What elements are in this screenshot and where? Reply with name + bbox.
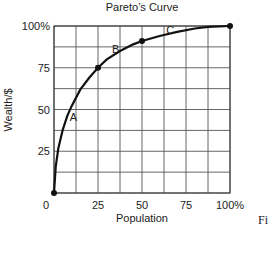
figure-caption-fragment: Fi — [258, 213, 268, 227]
x-tick-label: 0 — [43, 199, 49, 211]
chart-title: Pareto’s Curve — [106, 1, 179, 13]
y-tick-label: 100% — [22, 20, 50, 32]
y-tick-label: 75 — [38, 62, 50, 74]
curve-point-marker — [139, 38, 145, 44]
curve-point-marker — [51, 190, 57, 196]
x-axis-label: Population — [116, 212, 168, 224]
y-tick-label: 50 — [38, 104, 50, 116]
y-tick-label: 25 — [38, 145, 50, 157]
y-axis-label: Wealth/$ — [2, 88, 14, 131]
x-tick-label: 75 — [180, 199, 192, 211]
annotation-label: C — [166, 24, 174, 36]
curve-point-marker — [95, 65, 101, 71]
x-tick-label: 100% — [216, 199, 244, 211]
x-tick-label: 25 — [92, 199, 104, 211]
annotation-label: A — [70, 111, 78, 123]
pareto-chart: Pareto’s Curve 0255075100% 255075100% AB… — [0, 0, 268, 259]
grid — [54, 26, 230, 193]
x-tick-label: 50 — [136, 199, 148, 211]
x-tick-labels: 0255075100% — [43, 199, 244, 211]
curve-annotations: ABC — [70, 24, 174, 123]
y-tick-labels: 255075100% — [22, 20, 50, 157]
curve-point-marker — [227, 23, 233, 29]
annotation-label: B — [112, 43, 119, 55]
